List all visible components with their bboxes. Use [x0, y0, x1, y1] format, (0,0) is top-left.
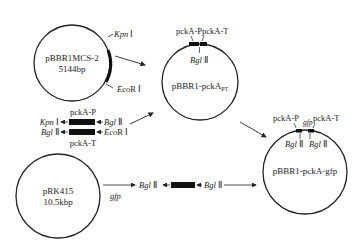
svg-text:pckA-T: pckA-T	[202, 26, 229, 36]
svg-text:Kpn Ⅰ: Kpn Ⅰ	[39, 117, 59, 127]
arrow-p2-to-p4	[240, 122, 266, 137]
kpn-site-label: Kpn Ⅰ	[113, 29, 133, 39]
plasmid-size: 5144bp	[59, 64, 87, 74]
plasmid-prk415: pRK415 10.5kbp gfp	[16, 154, 121, 238]
plasmid-name: pRK415	[43, 186, 74, 196]
arrow-p1-to-p2	[115, 56, 145, 65]
svg-text:pckA-P: pckA-P	[273, 113, 299, 123]
svg-text:Bgl Ⅱ: Bgl Ⅱ	[104, 117, 122, 127]
svg-text:Bgl Ⅱ: Bgl Ⅱ	[41, 127, 59, 137]
gfp-label: gfp	[110, 191, 121, 201]
plasmid-name: pBBR1-pckAPT	[172, 81, 229, 92]
svg-text:Bgl Ⅱ: Bgl Ⅱ	[285, 139, 303, 149]
plasmid-pbbr1-pcka-gfp: pckA-P gfp pckA-T Bgl Ⅱ Bgl Ⅱ pBBR1-pckA…	[263, 113, 347, 214]
svg-text:gfp: gfp	[303, 118, 313, 127]
plasmid-size: 10.5kbp	[43, 197, 73, 207]
svg-text:pckA-T: pckA-T	[70, 138, 97, 148]
ecori-site-label: EcoR Ⅰ	[116, 84, 141, 94]
plasmid-name: pBBR1-pckA-gfp	[273, 166, 338, 176]
fragment-pcka-p: pckA-P Kpn Ⅰ Bgl Ⅱ	[39, 107, 122, 127]
svg-text:Bgl Ⅱ: Bgl Ⅱ	[139, 180, 157, 190]
svg-text:pckA-P: pckA-P	[176, 26, 202, 36]
svg-text:EcoR Ⅰ: EcoR Ⅰ	[103, 127, 128, 137]
svg-text:pckA-T: pckA-T	[313, 113, 340, 123]
arrow-fragments-to-p2	[130, 113, 153, 124]
svg-text:Bgl Ⅱ: Bgl Ⅱ	[190, 55, 208, 65]
fragment-pcka-t: Bgl Ⅱ EcoR Ⅰ pckA-T	[41, 127, 128, 148]
plasmid-name: pBBR1MCS-2	[45, 53, 99, 63]
svg-text:Bgl Ⅱ: Bgl Ⅱ	[204, 180, 222, 190]
mcs-region	[106, 50, 111, 82]
fragment-gfp: Bgl Ⅱ Bgl Ⅱ	[139, 180, 222, 190]
svg-text:pckA-P: pckA-P	[70, 107, 96, 117]
svg-text:Bgl Ⅱ: Bgl Ⅱ	[309, 139, 327, 149]
cloning-diagram: pBBR1MCS-2 5144bp Kpn Ⅰ EcoR Ⅰ pckA-P Kp…	[0, 0, 358, 250]
plasmid-pbbr1-pcka-pt: pckA-P pckA-T Bgl Ⅱ pBBR1-pckAPT	[162, 26, 238, 120]
plasmid-pbbr1mcs2: pBBR1MCS-2 5144bp Kpn Ⅰ EcoR Ⅰ	[34, 25, 141, 101]
